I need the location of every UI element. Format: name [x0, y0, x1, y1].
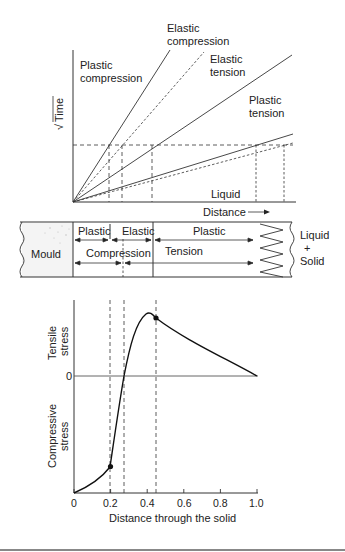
stress-curve	[74, 313, 257, 493]
stress-marker-tension	[153, 315, 158, 320]
liquid-solid-label-3: Solid	[300, 255, 324, 267]
compressive-stress-label-2: stress	[58, 421, 70, 451]
strip-plastic-tension-label: Plastic	[193, 225, 226, 237]
strip-compression-label: Compression	[86, 247, 151, 259]
arrow-right-icon	[264, 210, 270, 215]
solidus-line	[73, 134, 293, 202]
elastic-tension-label-1: Elastic	[210, 53, 243, 65]
x-tick-0: 0	[71, 497, 77, 509]
right-break-edge	[290, 222, 294, 277]
tensile-stress-label-1: Tensile	[46, 326, 58, 360]
plastic-compression-label-2: compression	[80, 72, 142, 84]
strip-tension-label: Tension	[165, 245, 203, 257]
mould-label: Mould	[31, 248, 61, 260]
strip-elastic-label: Elastic	[122, 225, 155, 237]
liquid-solid-label-2: +	[304, 242, 310, 254]
plastic-compression-label-1: Plastic	[80, 59, 113, 71]
stress-x-axis-label: Distance through the solid	[109, 512, 236, 524]
x-tick-0.4: 0.4	[140, 497, 155, 509]
x-tick-0.6: 0.6	[177, 497, 192, 509]
x-tick-0.2: 0.2	[103, 497, 118, 509]
y-axis-label-group: √ Time	[53, 96, 65, 130]
casting-cross-section-strip: Plastic Elastic Plastic Compression Tens…	[20, 222, 329, 277]
x-axis-label: Distance	[203, 206, 246, 218]
x-tick-1.0: 1.0	[249, 497, 264, 509]
page-divider	[0, 549, 345, 551]
compressive-stress-label-1: Compressive	[46, 404, 58, 468]
tensile-stress-label: Tensile stress	[46, 326, 70, 360]
stress-marker-compression	[108, 464, 113, 469]
time-distance-chart: Plastic compression Elastic compression …	[53, 22, 296, 218]
y-axis-label: Time	[53, 98, 65, 122]
solidification-stress-diagram: Plastic compression Elastic compression …	[0, 0, 345, 552]
strip-plastic-compression-label: Plastic	[78, 225, 111, 237]
liquidus-line	[73, 143, 293, 202]
liquid-solid-label-1: Liquid	[300, 229, 329, 241]
zero-label: 0	[66, 370, 72, 382]
top-row-arrows	[75, 238, 253, 242]
elastic-tension-label-2: tension	[210, 66, 245, 78]
plastic-tension-label-2: tension	[249, 107, 284, 119]
plastic-tension-label-1: Plastic	[249, 94, 282, 106]
tensile-stress-label-2: stress	[58, 326, 70, 356]
sqrt-symbol: √	[53, 123, 65, 130]
x-tick-0.8: 0.8	[213, 497, 228, 509]
compressive-stress-label: Compressive stress	[46, 404, 70, 468]
x-tick-marks	[74, 489, 257, 493]
elastic-compression-label-2: compression	[167, 35, 229, 47]
liquid-front-zigzag	[260, 224, 283, 277]
bottom-row-arrows	[75, 261, 253, 265]
x-tick-labels: 0 0.2 0.4 0.6 0.8 1.0	[71, 497, 264, 509]
liquid-label: Liquid	[211, 188, 240, 200]
elastic-compression-label-1: Elastic	[167, 22, 200, 34]
stress-distance-chart: 0 0.2 0.4 0.6 0.8 1.0 0 Tensile stress C…	[46, 300, 264, 524]
